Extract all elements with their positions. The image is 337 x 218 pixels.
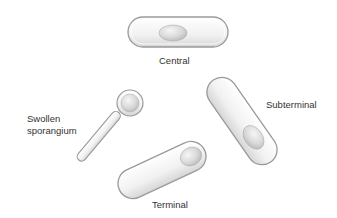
terminal-spore-cell: [113, 137, 211, 204]
central-label: Central: [159, 55, 190, 67]
swollen-endospore: [121, 94, 139, 112]
subterminal-label: Subterminal: [266, 99, 317, 111]
central-endospore: [159, 25, 187, 41]
terminal-label: Terminal: [152, 199, 188, 211]
swollen-sporangium-label: Swollen sporangium: [27, 113, 77, 137]
swollen-label-line2: sporangium: [27, 125, 77, 137]
swollen-label-line1: Swollen: [27, 113, 77, 125]
central-spore-cell: [128, 17, 228, 47]
swollen-sporangium-cell: [75, 90, 143, 163]
subterminal-spore-cell: [201, 71, 283, 170]
